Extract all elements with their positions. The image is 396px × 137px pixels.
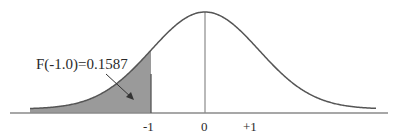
normal-distribution-chart: F(-1.0)=0.1587 -1 0 +1 xyxy=(0,0,396,137)
tick-label-neg1: -1 xyxy=(143,119,154,134)
tick-label-pos1: +1 xyxy=(243,119,257,134)
annotation-label: F(-1.0)=0.1587 xyxy=(36,56,128,73)
tick-label-0: 0 xyxy=(201,119,208,134)
